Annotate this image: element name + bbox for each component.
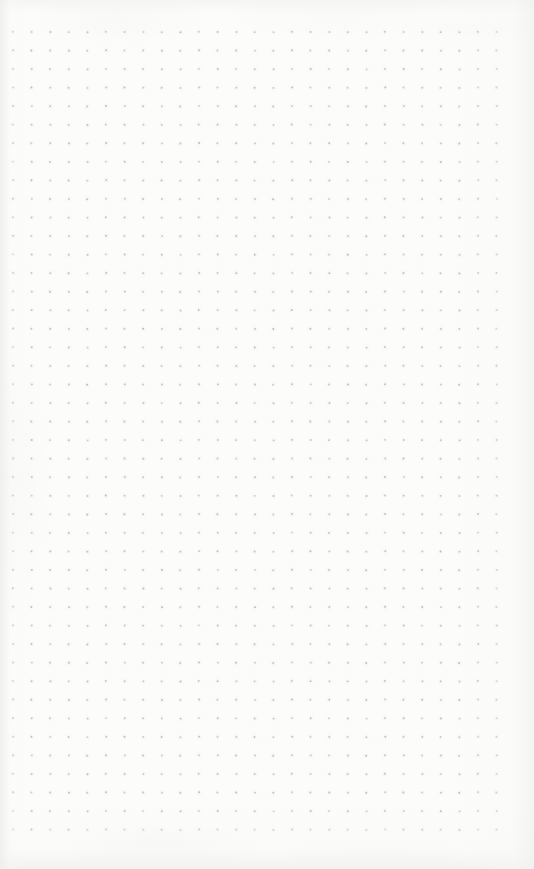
- paper-background: [0, 0, 534, 869]
- dot-grid-page: [0, 0, 534, 869]
